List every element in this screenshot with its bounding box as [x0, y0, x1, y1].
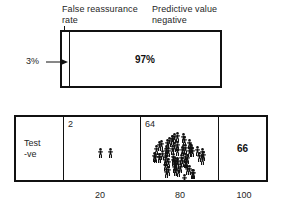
false-reassurance-rate-value: 3%	[26, 56, 48, 67]
person-icon	[182, 132, 187, 142]
person-icon-cluster-small	[64, 117, 140, 180]
disease-positive-cell: 2	[64, 117, 141, 180]
person-icon	[200, 144, 205, 154]
top-panel: 97%	[60, 30, 222, 88]
person-icon	[98, 144, 103, 154]
person-icon	[178, 159, 183, 169]
row-total-wrap: 66	[219, 117, 266, 180]
person-icon	[173, 162, 178, 172]
axis-tick-100: 100	[222, 190, 266, 201]
predictive-value-negative-value: 97%	[70, 32, 220, 86]
disease-negative-cell: 64	[141, 117, 219, 180]
row-total-value: 66	[237, 143, 248, 154]
person-icon	[172, 138, 177, 148]
axis-tick-20: 20	[78, 190, 122, 201]
person-icon-cluster-large	[141, 117, 218, 180]
axis-tick-80: 80	[158, 190, 202, 201]
predictive-value-negative-label: Predictive value negative	[152, 4, 252, 26]
test-negative-table: Test -ve 2 64 66	[14, 115, 268, 182]
row-label-cell: Test -ve	[16, 117, 64, 180]
person-icon	[165, 135, 170, 145]
figure-canvas: False reassurance rate Predictive value …	[0, 0, 283, 215]
person-icon	[184, 154, 189, 164]
person-icon	[190, 165, 195, 175]
person-icon	[182, 170, 187, 180]
false-reassurance-rate-label: False reassurance rate	[62, 4, 154, 26]
person-icon	[108, 144, 113, 154]
row-label: Test -ve	[24, 138, 41, 160]
row-total-cell: 66	[219, 117, 266, 180]
person-icon	[187, 135, 192, 145]
right-arrow-icon	[46, 56, 68, 68]
